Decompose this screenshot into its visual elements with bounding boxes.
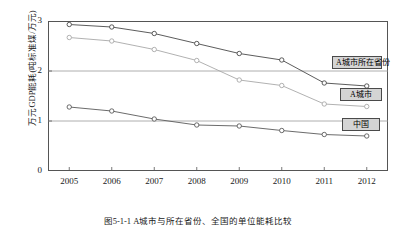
x-tick-label: 2010 xyxy=(273,176,291,186)
series-label-china: 中国 xyxy=(342,118,380,131)
chart-lines xyxy=(48,21,388,171)
plot-area xyxy=(48,21,388,171)
x-tick-label: 2008 xyxy=(188,176,206,186)
x-tick-label: 2007 xyxy=(145,176,163,186)
y-axis-ticks: 3210 xyxy=(24,0,42,227)
y-tick-label: 2 xyxy=(28,66,42,75)
x-tick-label: 2005 xyxy=(60,176,78,186)
series-label-province: A城市所在省份 xyxy=(332,56,382,69)
y-tick-label: 0 xyxy=(28,166,42,175)
x-tick-label: 2012 xyxy=(358,176,376,186)
series-label-city: A城市 xyxy=(340,88,382,101)
x-tick-label: 2006 xyxy=(103,176,121,186)
y-tick-label: 3 xyxy=(28,16,42,25)
x-axis-ticks: 20052006200720082009201020112012 xyxy=(48,176,388,192)
x-tick-label: 2011 xyxy=(315,176,333,186)
figure-container: 万元GDP能耗(吨标准煤/万元) 3210 200520062007200820… xyxy=(0,0,396,227)
figure-caption: 图5-1-1 A城市与所在省份、全国的单位能耗比较 xyxy=(0,214,396,226)
x-tick-label: 2009 xyxy=(230,176,248,186)
y-tick-label: 1 xyxy=(28,116,42,125)
